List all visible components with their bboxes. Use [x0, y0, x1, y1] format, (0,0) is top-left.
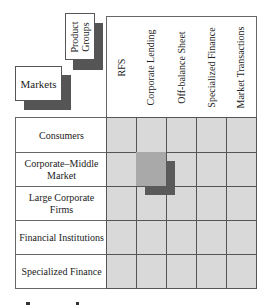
grid-hline — [106, 220, 257, 221]
row-label-large-corporate-firms: Large Corporate Firms — [15, 186, 107, 221]
grid-hline — [106, 152, 257, 153]
column-header-rfs: RFS — [106, 16, 137, 118]
row-label-specialized-finance: Specialized Finance — [15, 254, 107, 289]
highlighted-cell — [136, 152, 166, 186]
markets-box: Markets — [15, 66, 62, 101]
grid-vline — [256, 117, 257, 289]
grid-hline — [106, 186, 257, 187]
grid-vline — [166, 117, 167, 289]
grid-vline — [136, 117, 137, 289]
grid-vline — [226, 117, 227, 289]
row-label-consumers: Consumers — [15, 117, 107, 153]
grid-hline — [106, 254, 257, 255]
product-groups-box: Product Groups — [65, 13, 95, 60]
column-header-market-transactions: Market Transactions — [226, 16, 257, 118]
markets-label: Markets — [20, 78, 56, 90]
column-header-off-balance-sheet: Off-balance Sheet — [166, 16, 197, 118]
column-header-corporate-lending: Corporate Lending — [136, 16, 167, 118]
product-groups-label: Product Groups — [69, 21, 91, 52]
row-label-corporate-middle-market: Corporate–Middle Market — [15, 152, 107, 187]
matrix-grid — [106, 117, 257, 289]
grid-vline — [196, 117, 197, 289]
column-header-specialized-finance: Specialized Finance — [196, 16, 227, 118]
grid-hline — [106, 117, 257, 118]
row-label-financial-institutions: Financial Institutions — [15, 220, 107, 255]
